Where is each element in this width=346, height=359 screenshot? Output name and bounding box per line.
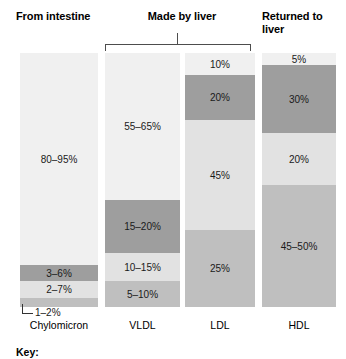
callout-horizontal-line (22, 313, 33, 314)
bar-segment: 5% (262, 53, 336, 65)
segment-label: 25% (210, 263, 230, 274)
segment-label: 30% (289, 94, 309, 105)
bar-segment: 10% (185, 53, 255, 75)
bar-segment: 20% (185, 75, 255, 120)
segment-label: 55–65% (124, 121, 161, 132)
segment-label: 20% (289, 154, 309, 165)
segment-label: 80–95% (41, 154, 78, 165)
bar-segment: 30% (262, 65, 336, 133)
segment-label: 15–20% (124, 221, 161, 232)
column-caption-ldl: LDL (185, 319, 255, 331)
bar-segment: 25% (185, 230, 255, 307)
bracket-tick-right (250, 44, 251, 51)
bar-segment: 55–65% (105, 53, 180, 200)
bar-segment: 45–50% (262, 185, 336, 307)
segment-label: 45–50% (281, 241, 318, 252)
segment-label: 10% (210, 59, 230, 70)
bar-segment: 80–95% (20, 53, 98, 265)
bar-segment: 3–6% (20, 265, 98, 281)
bar-chylomicron: 80–95%3–6%2–7%1–2% (20, 53, 98, 307)
segment-label: 2–7% (46, 284, 72, 295)
bar-segment: 10–15% (105, 253, 180, 281)
bar-segment: 2–7% (20, 281, 98, 298)
column-caption-hdl: HDL (262, 319, 336, 331)
segment-label: 5–10% (127, 289, 158, 300)
bracket-tick-center (177, 33, 178, 44)
chylomicron-callout: 1–2% (22, 302, 92, 320)
bar-segment: 5–10% (105, 281, 180, 307)
group-heading-from-intestine: From intestine (16, 10, 126, 23)
bar-segment: 20% (262, 133, 336, 185)
bar-ldl: 10%20%45%25% (185, 53, 255, 307)
column-caption-vldl: VLDL (105, 319, 180, 331)
bar-segment: 45% (185, 120, 255, 230)
segment-label: 20% (210, 92, 230, 103)
bar-segment: 15–20% (105, 200, 180, 253)
bracket-tick-left (105, 44, 106, 51)
group-heading-made-by-liver: Made by liver (122, 10, 242, 23)
group-heading-returned-to-liver: Returned to liver (262, 10, 342, 36)
segment-label: 5% (292, 54, 306, 65)
callout-label: 1–2% (35, 307, 61, 318)
segment-label: 3–6% (46, 268, 72, 279)
segment-label: 10–15% (124, 262, 161, 273)
made-by-liver-bracket (105, 38, 251, 51)
bracket-horizontal-line (105, 44, 251, 45)
figure-lipoprotein-composition: From intestine Made by liver Returned to… (0, 0, 346, 359)
segment-label: 45% (210, 170, 230, 181)
key-label: Key: (16, 346, 39, 358)
bar-vldl: 55–65%15–20%10–15%5–10% (105, 53, 180, 307)
bar-hdl: 5%30%20%45–50% (262, 53, 336, 307)
column-caption-chylomicron: Chylomicron (20, 319, 98, 331)
